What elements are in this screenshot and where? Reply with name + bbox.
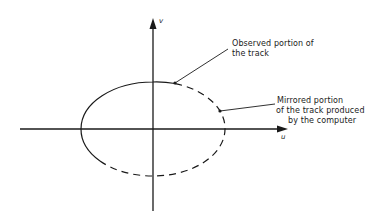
mirrored-annotation-line1: Mirrored portion xyxy=(277,96,365,106)
mirrored-annotation-line2: of the track produced xyxy=(276,106,365,116)
mirrored-annotation: Mirrored portion of the track produced b… xyxy=(277,96,365,126)
mirrored-leader-dot xyxy=(218,109,221,112)
v-axis-label: v xyxy=(159,16,163,26)
mirrored-track-dashed xyxy=(100,84,225,177)
observed-leader-dot xyxy=(173,81,176,84)
v-axis-arrow-icon xyxy=(150,18,157,29)
observed-annotation-line2: the track xyxy=(232,49,314,59)
observed-annotation: Observed portion of the track xyxy=(232,39,314,59)
mirrored-annotation-line3: by the computer xyxy=(288,116,365,126)
u-axis-label: u xyxy=(281,132,286,142)
observed-track-solid xyxy=(81,82,175,161)
observed-annotation-line1: Observed portion of xyxy=(232,39,314,49)
mirrored-leader-line xyxy=(220,104,275,111)
observed-leader-line xyxy=(175,49,228,83)
